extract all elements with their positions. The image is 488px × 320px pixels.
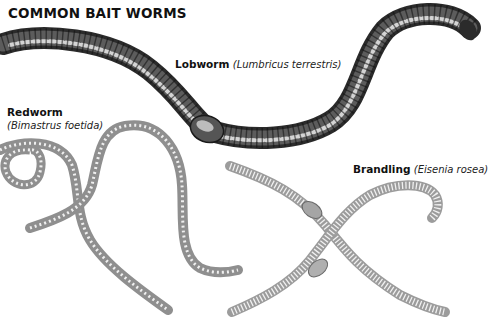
redworm-drawing — [0, 125, 238, 310]
brandling-common-name: Brandling — [353, 163, 410, 175]
brandling-drawing — [230, 166, 445, 312]
lobworm-scientific-name: (Lumbricus terrestris) — [233, 59, 342, 70]
page-title: COMMON BAIT WORMS — [8, 5, 187, 21]
lobworm-label: Lobworm (Lumbricus terrestris) — [175, 58, 341, 70]
redworm-common-name: Redworm — [7, 106, 63, 118]
brandling-scientific-name: (Eisenia rosea) — [414, 164, 488, 175]
redworm-scientific-name: (Bimastrus foetida) — [7, 120, 103, 131]
redworm-label: Redworm (Bimastrus foetida) — [7, 106, 103, 131]
brandling-label: Brandling (Eisenia rosea) — [353, 163, 488, 175]
lobworm-common-name: Lobworm — [175, 58, 229, 70]
